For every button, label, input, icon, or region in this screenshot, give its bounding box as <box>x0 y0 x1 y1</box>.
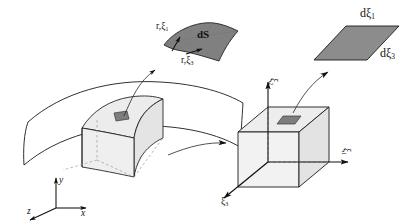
tangent-xi3-label: r,ξ3 <box>181 56 193 66</box>
xi2-axis-label: ξ2 <box>269 78 279 85</box>
dS-label: dS <box>197 29 209 40</box>
d-xi1-label: dξ1 <box>360 7 375 19</box>
xi3-axis-label: ξ3 <box>221 197 228 207</box>
z-axis-label: z <box>27 207 31 217</box>
y-axis-label: y <box>59 176 63 186</box>
xi1-axis-label: ξ1 <box>342 148 352 155</box>
d-xi3-label: dξ3 <box>380 47 395 59</box>
mapping-arrow-element-to-cube <box>168 143 226 155</box>
tangent-xi1-label: r,ξ1 <box>156 22 168 32</box>
shell-element-mapping-diagram: dS r,ξ1 r,ξ3 dξ1 dξ3 ξ2 ξ1 ξ3 y x z <box>0 0 415 222</box>
x-axis-label: x <box>81 209 85 219</box>
global-axes-triad <box>30 178 86 220</box>
z-axis-arrow <box>30 208 56 220</box>
surface-patch-on-curved-element <box>114 111 129 121</box>
curved-hexahedral-element <box>63 96 163 177</box>
